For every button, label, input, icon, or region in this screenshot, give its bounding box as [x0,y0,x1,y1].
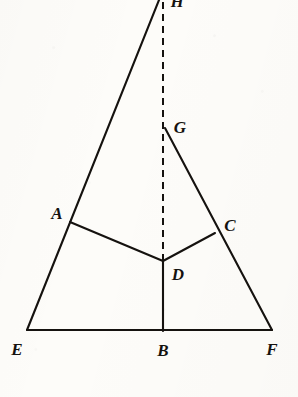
segment-GF [165,128,272,330]
vertex-label-B: B [157,342,168,359]
segment-EH [27,0,163,330]
geometry-figure: H G A C D E B F [0,0,298,397]
vertex-label-G: G [174,119,186,136]
figure-canvas [0,0,298,397]
vertex-label-C: C [224,217,235,234]
segment-CD [163,233,215,261]
segment-AD [70,222,163,261]
vertex-label-E: E [11,341,22,358]
vertex-label-H: H [170,0,183,10]
vertex-label-A: A [51,205,62,222]
solid-segment-layer [27,0,272,331]
vertex-label-D: D [172,266,184,283]
vertex-label-F: F [266,341,277,358]
